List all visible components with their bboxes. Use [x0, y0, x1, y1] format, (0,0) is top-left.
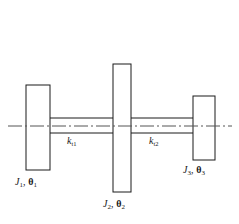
- label-stiffness-1-sub: t1: [72, 140, 77, 147]
- disk-1: [26, 85, 50, 170]
- label-disk-2: J2, θ2: [103, 198, 125, 211]
- label-stiffness-1: kt1: [67, 135, 77, 147]
- label-stiffness-2: kt2: [149, 135, 159, 147]
- label-disk-3-theta-sub: 3: [202, 169, 206, 177]
- disk-2: [113, 64, 131, 192]
- torsional-system-figure: J1, θ1 J2, θ2 J3, θ3 kt1 kt2: [0, 0, 239, 224]
- label-disk-3: J3, θ3: [183, 164, 205, 177]
- label-stiffness-2-sub: t2: [154, 140, 159, 147]
- disk-3: [193, 96, 215, 160]
- diagram-canvas: [0, 0, 239, 224]
- label-disk-1: J1, θ1: [15, 176, 37, 189]
- label-disk-2-theta-sub: 2: [122, 203, 126, 211]
- label-disk-1-theta-sub: 1: [34, 181, 38, 189]
